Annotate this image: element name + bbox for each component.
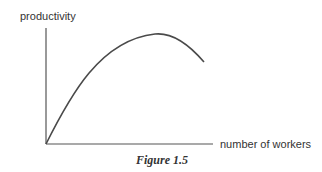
y-axis-label: productivity (20, 11, 76, 22)
figure: productivity number of workers Figure 1.… (0, 0, 322, 172)
figure-caption: Figure 1.5 (0, 153, 322, 168)
figure-caption-text: Figure 1.5 (136, 153, 188, 167)
x-axis-label: number of workers (220, 139, 311, 150)
productivity-curve (46, 34, 204, 144)
